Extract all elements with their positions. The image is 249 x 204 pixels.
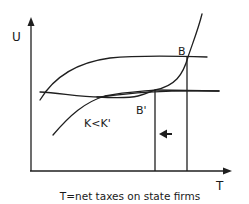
y-axis-label: U: [12, 30, 21, 44]
caption: T=net taxes on state firms: [59, 190, 200, 202]
constraint-curve-k-prime: [53, 14, 202, 135]
condition-label: K<K': [84, 117, 111, 130]
point-b-prime-label: B': [136, 104, 147, 117]
x-axis-label: T: [215, 179, 224, 193]
left-arrow-icon: [159, 130, 172, 139]
y-axis-arrow-icon: [28, 17, 35, 26]
lower-indifference-curve: [40, 91, 219, 97]
y-axis: [28, 17, 35, 171]
x-axis: [30, 168, 232, 175]
x-axis-arrow-icon: [223, 168, 232, 175]
diagram-canvas: U T B B' K<K' T=net taxes on state firms: [0, 0, 249, 204]
point-b-label: B: [178, 45, 186, 58]
